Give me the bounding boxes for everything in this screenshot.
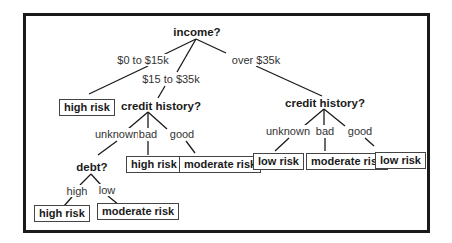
edge-label-0-to-15k: $0 to $15k: [116, 54, 169, 66]
edge-cm-good: [148, 112, 167, 129]
edge-cm-unknown: [128, 112, 148, 129]
edge-cr-unknown-child: [275, 138, 289, 151]
edge-cr-unknown: [304, 109, 324, 126]
leaf-moderate-risk-debt-low: moderate risk: [97, 203, 179, 220]
edge-cr-good: [324, 109, 345, 126]
edge-debt-high: [80, 174, 91, 185]
edge-income-high-child: [256, 66, 322, 96]
edge-cm-unknown-child: [98, 141, 117, 155]
edge-income-mid-child: [158, 86, 165, 98]
edge-label-over-35k: over $35k: [231, 54, 281, 66]
leaf-moderate-risk-credit-good: moderate risk: [179, 156, 261, 173]
edge-label-cr-unknown: unknown: [265, 125, 311, 137]
node-credit-history-mid: credit history?: [121, 100, 201, 112]
edge-label-debt-low: low: [98, 184, 117, 196]
leaf-high-risk-income-low: high risk: [59, 99, 115, 116]
edge-label-debt-high: high: [66, 185, 89, 197]
edge-label-15-to-35k: $15 to $35k: [141, 73, 201, 85]
node-debt: debt?: [76, 161, 107, 173]
edge-income-low-leaf: [89, 66, 148, 94]
node-credit-history-right: credit history?: [285, 97, 365, 109]
node-income: income?: [173, 26, 220, 38]
edge-cr-good-child: [365, 138, 374, 146]
edge-label-cr-bad: bad: [315, 125, 335, 137]
edge-cm-good-child: [186, 141, 195, 153]
edge-label-cm-good: good: [169, 128, 195, 140]
leaf-high-risk-credit-bad: high risk: [126, 156, 182, 173]
edge-label-cr-good: good: [347, 125, 373, 137]
leaf-high-risk-debt-high: high risk: [34, 205, 90, 222]
leaf-low-risk-cr-unknown: low risk: [253, 153, 304, 170]
leaf-low-risk-cr-good: low risk: [375, 152, 426, 169]
edge-label-cm-unknown: unknown: [94, 128, 140, 140]
edge-label-cm-bad: bad: [138, 128, 158, 140]
edge-income-high: [196, 39, 226, 53]
